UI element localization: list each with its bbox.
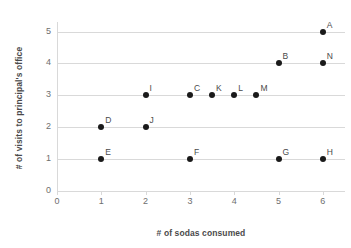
data-point-label-D: D xyxy=(105,115,111,125)
x-tick-label-3: 3 xyxy=(180,196,200,206)
x-tick-mark-4 xyxy=(234,191,235,195)
data-point-label-H: H xyxy=(327,147,333,157)
gridline-y-5 xyxy=(57,32,345,33)
data-point-label-K: K xyxy=(216,83,222,93)
data-point-label-A: A xyxy=(327,20,333,30)
x-tick-label-2: 2 xyxy=(136,196,156,206)
x-tick-label-4: 4 xyxy=(224,196,244,206)
data-point-J[interactable] xyxy=(143,124,149,130)
x-tick-mark-0 xyxy=(57,191,58,195)
x-tick-mark-2 xyxy=(146,191,147,195)
y-axis-title: # of visits to principal's office xyxy=(14,23,24,193)
data-point-I[interactable] xyxy=(143,92,149,98)
data-point-label-B: B xyxy=(283,51,289,61)
y-tick-label-3: 3 xyxy=(46,89,51,99)
data-point-E[interactable] xyxy=(98,156,104,162)
y-tick-label-0: 0 xyxy=(46,185,51,195)
x-tick-label-1: 1 xyxy=(91,196,111,206)
data-point-label-N: N xyxy=(327,51,333,61)
data-point-label-G: G xyxy=(283,147,290,157)
data-point-F[interactable] xyxy=(187,156,193,162)
x-tick-label-0: 0 xyxy=(47,196,67,206)
y-tick-label-4: 4 xyxy=(46,57,51,67)
plot-area: ABNICKLMDJEFGH xyxy=(57,22,345,191)
data-point-L[interactable] xyxy=(231,92,237,98)
data-point-label-M: M xyxy=(260,83,267,93)
x-tick-mark-1 xyxy=(101,191,102,195)
scatter-chart: # of visits to principal's office 012345… xyxy=(0,0,351,248)
gridline-y-3 xyxy=(57,95,345,96)
data-point-H[interactable] xyxy=(320,156,326,162)
data-point-A[interactable] xyxy=(320,29,326,35)
x-axis-title: # of sodas consumed xyxy=(57,228,345,238)
data-point-N[interactable] xyxy=(320,60,326,66)
data-point-label-I: I xyxy=(150,83,152,93)
data-point-C[interactable] xyxy=(187,92,193,98)
x-tick-label-6: 6 xyxy=(313,196,333,206)
data-point-label-E: E xyxy=(105,147,111,157)
data-point-G[interactable] xyxy=(276,156,282,162)
data-point-D[interactable] xyxy=(98,124,104,130)
data-point-K[interactable] xyxy=(209,92,215,98)
data-point-M[interactable] xyxy=(253,92,259,98)
data-point-label-J: J xyxy=(150,115,154,125)
data-point-label-C: C xyxy=(194,83,200,93)
y-tick-label-1: 1 xyxy=(46,153,51,163)
x-axis-line xyxy=(57,191,345,192)
gridline-y-4 xyxy=(57,63,345,64)
y-tick-label-5: 5 xyxy=(46,26,51,36)
x-tick-mark-3 xyxy=(190,191,191,195)
data-point-B[interactable] xyxy=(276,60,282,66)
data-point-label-F: F xyxy=(194,147,199,157)
x-tick-mark-5 xyxy=(279,191,280,195)
y-tick-label-2: 2 xyxy=(46,121,51,131)
x-tick-label-5: 5 xyxy=(269,196,289,206)
x-tick-mark-6 xyxy=(323,191,324,195)
data-point-label-L: L xyxy=(238,83,243,93)
